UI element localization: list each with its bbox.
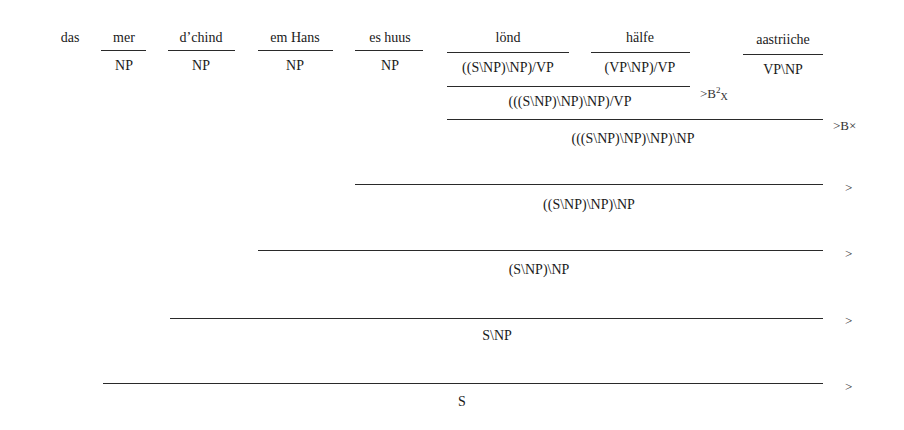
lexical-line (101, 50, 146, 51)
category-em-hans: NP (286, 58, 304, 74)
word-em-hans: em Hans (270, 30, 319, 46)
lexical-line (355, 50, 423, 51)
rule-label-2: >B× (833, 118, 856, 134)
word-mer: mer (113, 30, 135, 46)
category-aastriiche: VP\NP (763, 62, 803, 78)
rule-label-5: > (845, 313, 852, 329)
category-loend: ((S\NP)\NP)/VP (462, 60, 554, 76)
word-loend: lönd (496, 30, 521, 46)
derivation-result-3: ((S\NP)\NP)\NP (543, 197, 635, 213)
derivation-line-3 (355, 184, 823, 185)
lexical-line (447, 52, 569, 53)
derivation-line-2 (447, 119, 823, 120)
derivation-line-5 (170, 318, 823, 319)
word-es-huus: es huus (369, 30, 411, 46)
category-mer: NP (115, 58, 133, 74)
word-dchind: d’chind (180, 30, 223, 46)
derivation-line-1 (447, 86, 690, 87)
lexical-line (258, 50, 333, 51)
rule-label-4: > (845, 246, 852, 262)
word-haelfe: hälfe (626, 30, 654, 46)
rule-label-3: > (845, 180, 852, 196)
category-es-huus: NP (381, 58, 399, 74)
derivation-line-4 (258, 250, 823, 251)
lexical-line (743, 54, 823, 55)
derivation-result-1: (((S\NP)\NP)\NP)/VP (509, 94, 632, 110)
word-aastriiche: aastriiche (756, 32, 810, 48)
category-dchind: NP (192, 58, 210, 74)
rule-label-1: >B2X (700, 82, 728, 105)
derivation-line-6 (103, 383, 823, 384)
derivation-result-6: S (458, 394, 466, 410)
derivation-result-5: S\NP (482, 328, 512, 344)
derivation-result-2: (((S\NP)\NP)\NP)\NP (572, 131, 695, 147)
word-das: das (61, 30, 80, 46)
category-haelfe: (VP\NP)/VP (605, 60, 676, 76)
derivation-result-4: (S\NP)\NP (509, 262, 570, 278)
rule-label-6: > (845, 379, 852, 395)
lexical-line (591, 52, 690, 53)
lexical-line (168, 50, 235, 51)
